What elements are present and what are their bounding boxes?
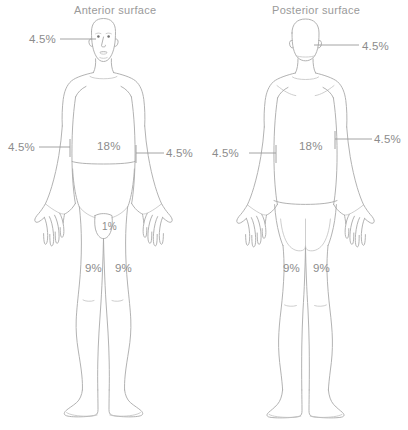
anterior-trunk-percentage: 18% [97, 140, 121, 152]
anterior-right-leg-percentage: 9% [115, 262, 132, 274]
posterior-right-leg-percentage: 9% [313, 262, 330, 274]
anterior-left-arm-percentage: 4.5% [8, 141, 35, 153]
anterior-head-percentage: 4.5% [29, 33, 56, 45]
anterior-right-arm-percentage: 4.5% [166, 147, 193, 159]
posterior-trunk-percentage: 18% [299, 140, 323, 152]
anterior-left-leg-percentage: 9% [85, 262, 102, 274]
posterior-right-arm-percentage: 4.5% [374, 133, 401, 145]
posterior-body-figure [204, 0, 408, 430]
posterior-left-leg-percentage: 9% [283, 262, 300, 274]
anterior-body-figure [0, 0, 204, 430]
posterior-head-percentage: 4.5% [362, 40, 389, 52]
burn-chart-canvas: Anterior surface Posterior surface [0, 0, 408, 430]
anterior-genitalia-percentage: 1% [102, 221, 117, 232]
posterior-left-arm-percentage: 4.5% [212, 147, 239, 159]
